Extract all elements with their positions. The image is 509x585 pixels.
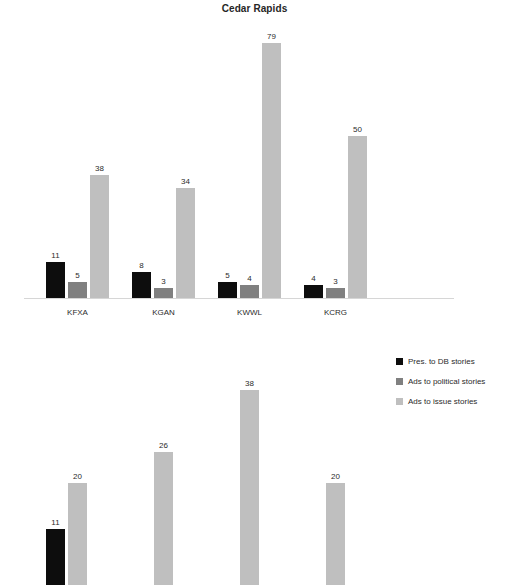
bar xyxy=(240,285,259,298)
bar xyxy=(46,529,65,585)
bar-value-label: 38 xyxy=(82,164,117,173)
legend-item-label: Ads to political stories xyxy=(408,377,485,386)
chart-cedar-rapids: Cedar Rapids 11538KFXA8334KGAN5479KWWL43… xyxy=(0,0,509,330)
x-axis-line xyxy=(24,298,454,299)
bar xyxy=(348,136,367,298)
bar-value-label: 11 xyxy=(38,251,73,260)
legend-swatch-icon xyxy=(396,378,403,385)
bar xyxy=(46,262,65,298)
chart-legend: Pres. to DB stories Ads to political sto… xyxy=(396,351,509,411)
plot-area-top: 11538KFXA8334KGAN5479KWWL4350KCRG xyxy=(0,20,509,300)
bar-value-label: 50 xyxy=(340,125,375,134)
bar xyxy=(240,390,259,585)
chart-title: Cedar Rapids xyxy=(0,3,509,14)
bar xyxy=(218,282,237,298)
bar xyxy=(90,175,109,298)
category-label: KCRG xyxy=(284,308,387,317)
bar-value-label: 26 xyxy=(146,441,181,450)
bar xyxy=(262,43,281,298)
bar xyxy=(176,188,195,298)
bar-value-label: 34 xyxy=(168,177,203,186)
bar-value-label: 20 xyxy=(60,472,95,481)
legend-swatch-icon xyxy=(396,398,403,405)
bar xyxy=(304,285,323,298)
legend-item-label: Pres. to DB stories xyxy=(408,357,475,366)
bar xyxy=(154,452,173,585)
bar-value-label: 38 xyxy=(232,379,267,388)
bar xyxy=(68,282,87,298)
bar-value-label: 8 xyxy=(124,261,159,270)
legend-item-label: Ads to issue stories xyxy=(408,397,477,406)
bar xyxy=(68,483,87,585)
legend-item-ads-political[interactable]: Ads to political stories xyxy=(396,371,509,391)
legend-item-pres-to-db[interactable]: Pres. to DB stories xyxy=(396,351,509,371)
legend-item-ads-issue[interactable]: Ads to issue stories xyxy=(396,391,509,411)
bar xyxy=(326,483,345,585)
bar-value-label: 20 xyxy=(318,472,353,481)
bar xyxy=(326,288,345,298)
bar-value-label: 79 xyxy=(254,32,289,41)
legend-swatch-icon xyxy=(396,358,403,365)
bar xyxy=(154,288,173,298)
